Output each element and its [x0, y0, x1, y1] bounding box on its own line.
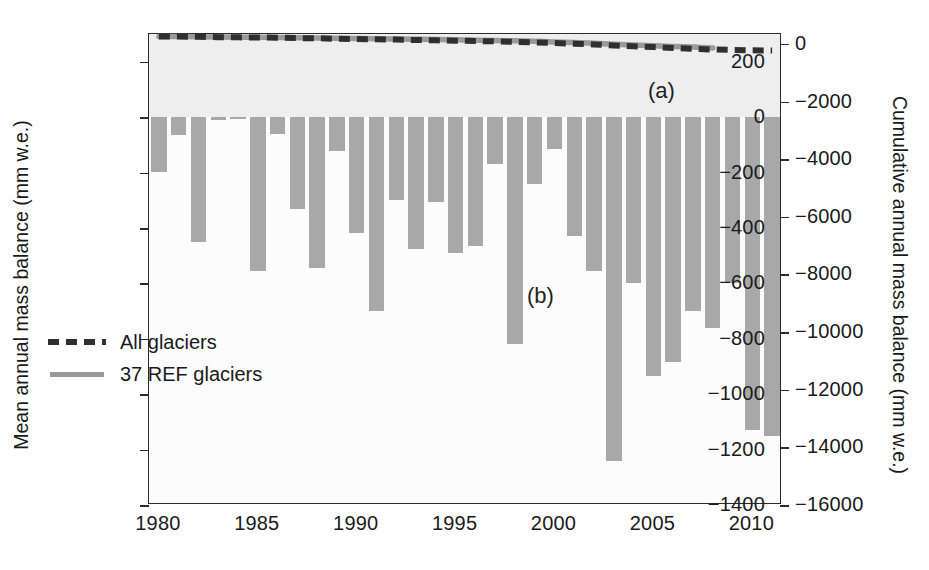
- y-tick-label-left--600: −600: [719, 271, 765, 294]
- solid-line-swatch-icon: [48, 365, 106, 383]
- y-tick-label-left--400: −400: [719, 215, 765, 238]
- legend-item-all-glaciers: All glaciers: [48, 326, 262, 358]
- y-tick-label-right-0: 0: [795, 31, 806, 54]
- y-tick-right--16000: [780, 505, 789, 507]
- y-axis-title-right: Cumulative annual mass balance (mm w.e.): [888, 35, 911, 535]
- y-tick-label-right--8000: −8000: [795, 262, 852, 285]
- y-tick-right--4000: [780, 159, 789, 161]
- legend: All glaciers 37 REF glaciers: [48, 326, 262, 390]
- panel-label-a: (a): [648, 78, 675, 104]
- x-tick-label-1980: 1980: [135, 512, 180, 535]
- y-tick-label-right--16000: −16000: [795, 493, 864, 516]
- y-tick-right--12000: [780, 390, 789, 392]
- y-tick-label-left--1200: −1200: [708, 437, 765, 460]
- y-tick-label-right--10000: −10000: [795, 320, 864, 343]
- line-series-overlay: [149, 34, 782, 505]
- y-tick-label-right--12000: −12000: [795, 377, 864, 400]
- y-tick-right--6000: [780, 217, 789, 219]
- y-tick-label-left--1000: −1000: [708, 382, 765, 405]
- plot-area: [148, 33, 781, 504]
- x-tick-label-2005: 2005: [630, 512, 675, 535]
- y-tick-label-left--800: −800: [719, 326, 765, 349]
- y-tick-right--10000: [780, 332, 789, 334]
- y-tick-right--14000: [780, 447, 789, 449]
- y-tick-label-right--6000: −6000: [795, 204, 852, 227]
- legend-item-ref-glaciers: 37 REF glaciers: [48, 358, 262, 390]
- y-tick-label-left-200: 200: [731, 49, 765, 72]
- y-tick-left-0: [140, 117, 149, 119]
- legend-label-all-glaciers: All glaciers: [120, 331, 217, 354]
- panel-label-b: (b): [527, 283, 554, 309]
- y-tick-label-right--14000: −14000: [795, 435, 864, 458]
- y-tick-left--600: [140, 283, 149, 285]
- figure-container: Mean annual mass balance (mm w.e.) Cumul…: [0, 0, 929, 570]
- y-axis-title-left: Mean annual mass balance (mm w.e.): [10, 50, 33, 520]
- y-tick-label-left-0: 0: [754, 105, 765, 128]
- y-tick-left-200: [140, 62, 149, 64]
- y-tick-left--400: [140, 228, 149, 230]
- y-tick-label-right--2000: −2000: [795, 89, 852, 112]
- y-tick-label-left--200: −200: [719, 160, 765, 183]
- y-tick-left--1000: [140, 394, 149, 396]
- x-tick-label-1985: 1985: [234, 512, 279, 535]
- y-tick-right--8000: [780, 274, 789, 276]
- x-tick-label-1990: 1990: [333, 512, 378, 535]
- y-tick-right-0: [780, 44, 789, 46]
- x-tick-label-2000: 2000: [531, 512, 576, 535]
- dashed-line-swatch-icon: [48, 333, 106, 351]
- y-tick-left--200: [140, 173, 149, 175]
- x-tick-label-2010: 2010: [729, 512, 774, 535]
- legend-label-ref-glaciers: 37 REF glaciers: [120, 363, 262, 386]
- y-tick-left--1400: [140, 505, 149, 507]
- y-tick-label-right--4000: −4000: [795, 147, 852, 170]
- y-tick-right--2000: [780, 102, 789, 104]
- x-tick-label-1995: 1995: [432, 512, 477, 535]
- y-tick-left--1200: [140, 450, 149, 452]
